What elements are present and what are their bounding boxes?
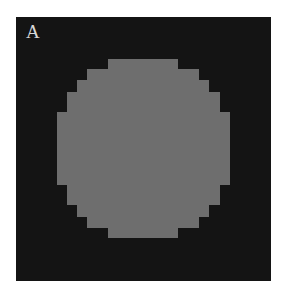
disk-row — [108, 228, 178, 238]
disk-row — [87, 69, 199, 80]
disk-row — [67, 185, 220, 205]
disk-row — [108, 59, 178, 69]
disk-row — [67, 92, 220, 112]
panel-label: A — [26, 22, 40, 41]
disk-row — [87, 217, 199, 228]
disk-row — [77, 205, 209, 217]
disk-row — [57, 112, 230, 185]
disk-row — [77, 80, 209, 92]
